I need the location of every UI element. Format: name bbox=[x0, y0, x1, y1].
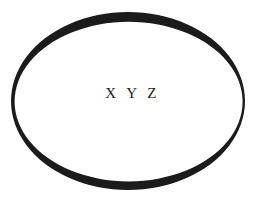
ellipse-center-label: X Y Z bbox=[0, 85, 261, 101]
background-rect bbox=[0, 0, 261, 207]
diagram-canvas: X Y Z bbox=[0, 0, 261, 207]
ellipse-diagram-svg bbox=[0, 0, 261, 207]
